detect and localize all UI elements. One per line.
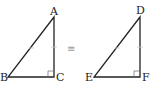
vertex-label-e: E bbox=[85, 71, 93, 84]
triangle-def-outline bbox=[94, 17, 140, 77]
vertex-label-f: F bbox=[142, 71, 150, 84]
congruent-symbol: ≡ bbox=[67, 43, 75, 54]
triangle-abc: A B C bbox=[0, 5, 64, 84]
vertex-label-c: C bbox=[56, 71, 64, 84]
right-angle-mark-c bbox=[48, 71, 54, 77]
vertex-label-d: D bbox=[136, 4, 145, 17]
congruent-triangles-diagram: A B C ≡ D E F bbox=[0, 0, 154, 100]
triangle-def: D E F bbox=[85, 4, 150, 84]
vertex-label-b: B bbox=[0, 71, 8, 84]
vertex-label-a: A bbox=[49, 5, 59, 18]
triangle-abc-outline bbox=[8, 17, 54, 77]
right-angle-mark-f bbox=[134, 71, 140, 77]
